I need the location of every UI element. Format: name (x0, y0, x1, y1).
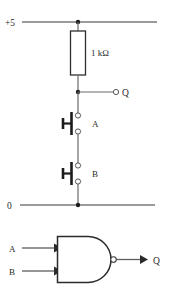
output-terminal-circle (113, 89, 118, 94)
push-button-switch-b[interactable] (63, 162, 81, 185)
switch-b-bottom-contact (75, 179, 80, 184)
supply-rail-group (22, 20, 157, 24)
gate-output-arrowhead (140, 255, 148, 264)
gate-input-a-label: A (9, 244, 16, 254)
switch-a-bottom-contact (75, 129, 80, 134)
supply-rail-label: +5 (5, 18, 15, 28)
gate-output-q-label: Q (153, 256, 160, 266)
push-button-switch-a[interactable] (63, 112, 81, 135)
circuit-diagram-canvas: +5 1 kΩ Q A B 0 A B Q (0, 0, 171, 289)
gate-input-b-label: B (9, 267, 15, 277)
switch-b-top-contact (75, 163, 80, 168)
output-tap-group (76, 89, 119, 94)
and-gate-body (58, 237, 112, 283)
switch-a-top-contact (75, 113, 80, 118)
switch-b-label: B (92, 169, 98, 179)
ground-rail-group (20, 203, 155, 207)
ground-junction-dot (76, 203, 80, 207)
ground-rail-label: 0 (7, 201, 12, 211)
resistor-body (71, 31, 86, 75)
circuit-figure: +5 1 kΩ Q A B 0 A B Q (0, 0, 171, 289)
inversion-bubble-icon (111, 257, 117, 263)
resistor-branch (71, 22, 86, 92)
output-q-label: Q (122, 88, 129, 98)
switch-a-label: A (92, 119, 99, 129)
nand-gate-symbol (22, 237, 148, 283)
resistor-value-label: 1 kΩ (91, 48, 109, 58)
